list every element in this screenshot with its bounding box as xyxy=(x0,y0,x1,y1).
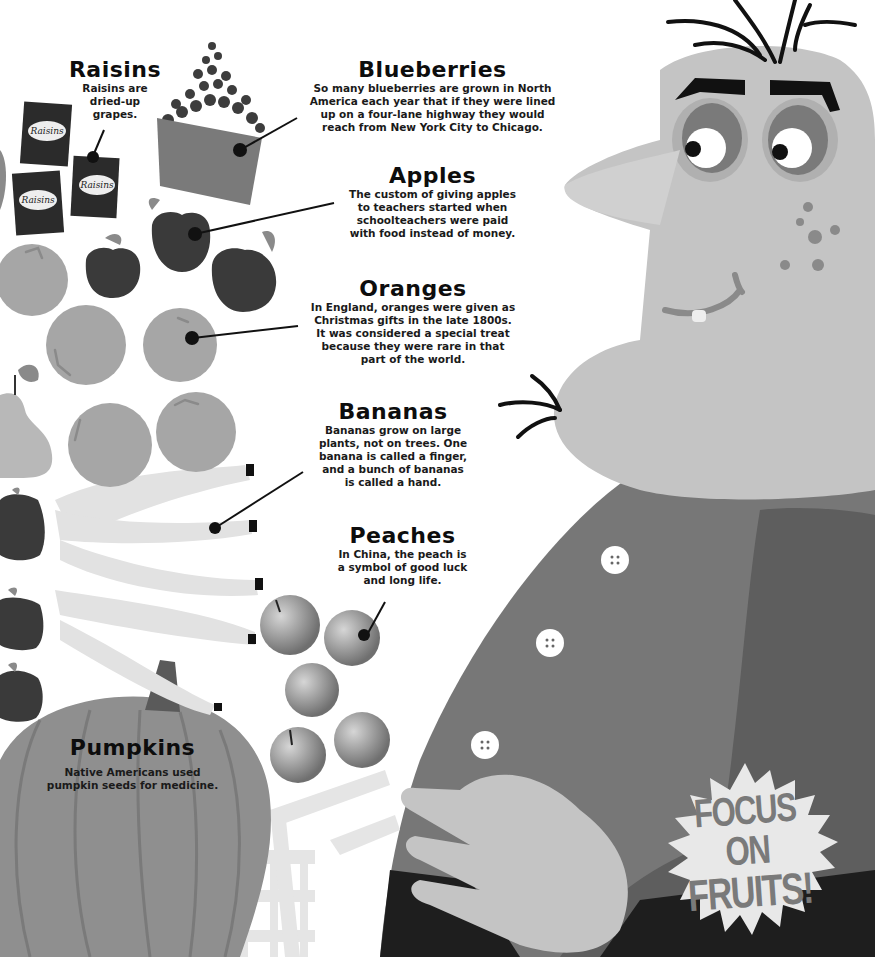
callout-oranges: Oranges In England, oranges were given a… xyxy=(298,277,528,366)
callout-line: It was considered a special treat xyxy=(298,327,528,340)
callout-pumpkins: Pumpkins Native Americans used pumpkin s… xyxy=(40,736,225,792)
callout-title: Raisins xyxy=(60,58,170,82)
callout-line: and long life. xyxy=(330,574,475,587)
starburst-line-1: FOCUS ON xyxy=(675,785,817,874)
callout-line: to teachers started when xyxy=(330,201,535,214)
callout-title: Blueberries xyxy=(295,58,570,82)
callout-title: Bananas xyxy=(318,400,468,424)
callout-line: So many blueberries are grown in North xyxy=(295,82,570,95)
callout-line: America each year that if they were line… xyxy=(295,95,570,108)
callout-line: with food instead of money. xyxy=(330,227,535,240)
callout-line: a symbol of good luck xyxy=(330,561,475,574)
callout-line: Bananas grow on large xyxy=(318,424,468,437)
raisin-box-label: Raisins xyxy=(20,195,55,205)
raisin-box-label: Raisins xyxy=(79,180,114,190)
callout-line: pumpkin seeds for medicine. xyxy=(40,779,225,792)
callout-blueberries: Blueberries So many blueberries are grow… xyxy=(295,58,570,134)
callout-line: In England, oranges were given as xyxy=(298,301,528,314)
callout-line: Native Americans used xyxy=(40,766,225,779)
raisin-boxes-icon: Raisins Raisins Raisins xyxy=(12,101,120,235)
callout-line: Christmas gifts in the late 1800s. xyxy=(298,314,528,327)
starburst-line-2: FRUITS! xyxy=(681,865,820,918)
callout-title: Pumpkins xyxy=(40,736,225,760)
callout-raisins: Raisins Raisins are dried-up grapes. xyxy=(60,58,170,121)
callout-line: schoolteachers were paid xyxy=(330,214,535,227)
callout-line: plants, not on trees. One xyxy=(318,437,468,450)
callout-line: part of the world. xyxy=(298,353,528,366)
callout-line: In China, the peach is xyxy=(330,548,475,561)
callout-line: dried-up xyxy=(60,95,170,108)
callout-title: Peaches xyxy=(330,524,475,548)
callout-title: Apples xyxy=(330,164,535,188)
callout-line: The custom of giving apples xyxy=(330,188,535,201)
callout-title: Oranges xyxy=(298,277,528,301)
callout-peaches: Peaches In China, the peach is a symbol … xyxy=(330,524,475,587)
callout-line: up on a four-lane highway they would xyxy=(295,108,570,121)
callout-line: banana is called a finger, xyxy=(318,450,468,463)
bananas-icon xyxy=(55,464,263,715)
callout-line: because they were rare in that xyxy=(298,340,528,353)
peaches-icon xyxy=(260,595,390,783)
raisin-box-label: Raisins xyxy=(29,126,64,136)
pear-icon xyxy=(0,393,52,478)
callout-line: Raisins are xyxy=(60,82,170,95)
blueberries-icon xyxy=(157,42,265,205)
callout-bananas: Bananas Bananas grow on large plants, no… xyxy=(318,400,468,489)
starburst-text: FOCUS ON FRUITS! xyxy=(675,785,820,918)
callout-line: is called a hand. xyxy=(318,476,468,489)
callout-line: reach from New York City to Chicago. xyxy=(295,121,570,134)
callout-line: grapes. xyxy=(60,108,170,121)
callout-line: and a bunch of bananas xyxy=(318,463,468,476)
callout-apples: Apples The custom of giving apples to te… xyxy=(330,164,535,240)
